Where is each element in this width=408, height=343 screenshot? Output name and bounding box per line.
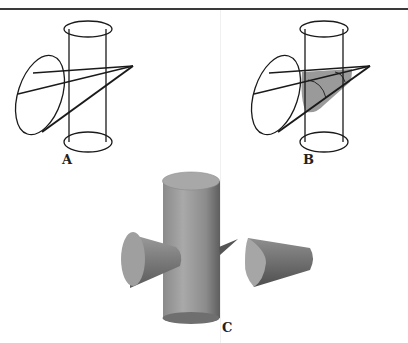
- solid-cylinder-top: [163, 172, 220, 190]
- panel-b-shaded-intersection: [242, 21, 370, 152]
- cone-base-ellipse: [6, 49, 73, 141]
- cylinder-bottom-ellipse: [64, 132, 112, 152]
- panel-label-c: C: [222, 320, 232, 335]
- intersection-shade: [302, 69, 353, 112]
- panel-label-a: A: [62, 152, 72, 167]
- cone-tip-sliver: [219, 239, 238, 255]
- left-cone-face: [121, 232, 145, 286]
- panel-c-solid: [121, 172, 313, 324]
- panel-label-b: B: [303, 152, 314, 167]
- cone-bottom-edge: [42, 66, 133, 132]
- geometry-figure: [0, 0, 408, 343]
- panel-a-wireframe: [6, 21, 133, 152]
- cylinder-top-ellipse: [64, 21, 112, 37]
